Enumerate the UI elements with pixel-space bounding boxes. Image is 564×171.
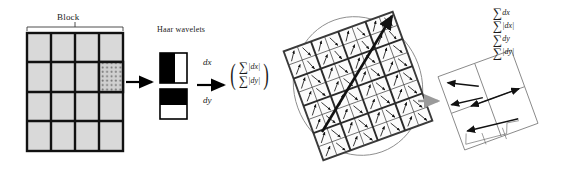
sigma-icon: ∑ bbox=[493, 19, 502, 32]
sigma-icon: ∑ bbox=[493, 6, 502, 19]
vector-term-dx: |dx| bbox=[248, 63, 260, 71]
descriptor-sums: ∑ dx ∑ |dx| ∑ dy ∑ |dy| bbox=[493, 6, 514, 59]
close-paren: ) bbox=[263, 62, 269, 85]
response-vector: ( ∑ |dx| ∑ |dy| ) bbox=[228, 60, 271, 87]
sigma-icon: ∑ bbox=[239, 60, 248, 73]
haar-wavelets-label: Haar wavelets bbox=[157, 26, 205, 34]
sigma-icon: ∑ bbox=[493, 46, 502, 59]
vector-term-dy: |dy| bbox=[248, 77, 260, 85]
sigma-icon: ∑ bbox=[493, 33, 502, 46]
dy-wavelet bbox=[160, 89, 187, 119]
block-label: Block bbox=[57, 13, 80, 22]
dy-label: dy bbox=[203, 96, 212, 105]
sigma-icon: ∑ bbox=[239, 74, 248, 87]
sum-row-abs-dy: ∑ |dy| bbox=[493, 46, 514, 59]
sum-term-abs-dx: |dx| bbox=[502, 22, 514, 30]
sum-row-dx: ∑ dx bbox=[493, 6, 514, 19]
vector-row-dx: ∑ |dx| bbox=[239, 60, 260, 73]
sum-term-abs-dy: |dy| bbox=[502, 48, 514, 56]
vector-row-dy: ∑ |dy| bbox=[239, 74, 260, 87]
surf-descriptor-figure bbox=[0, 0, 564, 171]
dx-wavelet bbox=[160, 53, 187, 83]
sum-term-dx: dx bbox=[502, 9, 510, 17]
sum-row-abs-dx: ∑ |dx| bbox=[493, 19, 514, 32]
sum-term-dy: dy bbox=[502, 35, 510, 43]
sum-row-dy: ∑ dy bbox=[493, 33, 514, 46]
dx-label: dx bbox=[203, 58, 212, 67]
highlighted-block-cell bbox=[99, 62, 123, 92]
open-paren: ( bbox=[230, 62, 236, 85]
